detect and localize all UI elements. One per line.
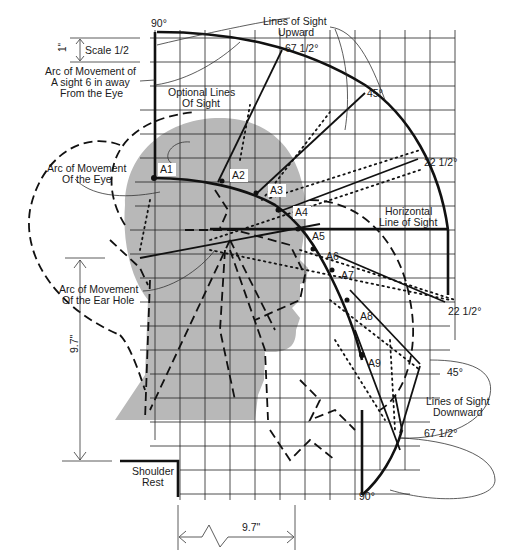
angle-label-down-22: 22 1/2° [448, 305, 481, 317]
angle-label-up-45: 45° [367, 87, 383, 99]
angle-label-down-45: 45° [447, 366, 463, 378]
label-lines-up-2: Upward [278, 26, 314, 38]
point-label-a3: A3 [270, 184, 283, 196]
label-arc-eye-2: Of the Eye [62, 173, 112, 185]
horizontal-dimension [178, 505, 295, 550]
angle-label-bottom-90: 90° [359, 490, 375, 502]
angle-label-up-22: 22 1/2° [424, 156, 457, 168]
sight-lines-diagram: A1 A2 A3 A4 A5 A6 A7 A8 A9 90° 67 1/2° 4… [0, 0, 510, 560]
angle-label-down-67: 67 1/2° [424, 427, 457, 439]
point-label-a1: A1 [160, 163, 173, 175]
dim-vertical-label: 9.7" [68, 334, 80, 353]
dim-horizontal-label: 9.7" [242, 521, 261, 533]
label-lines-down-2: Downward [433, 406, 483, 418]
label-shoulder-2: Rest [142, 476, 164, 488]
point-label-a4: A4 [295, 206, 308, 218]
label-optional-2: Of Sight [182, 97, 220, 109]
point-label-a6: A6 [326, 250, 339, 262]
label-horizontal-2: Line of Sight [379, 216, 437, 228]
point-label-a2: A2 [232, 169, 245, 181]
point-label-a8: A8 [360, 310, 373, 322]
angle-label-up-67: 67 1/2° [285, 42, 318, 54]
point-label-a9: A9 [368, 357, 381, 369]
scale-unit-mark: 1" [57, 42, 68, 52]
point-label-a7: A7 [341, 269, 354, 281]
label-arc6-3: From the Eye [60, 87, 123, 99]
head-silhouette [115, 118, 308, 420]
label-arc-ear-2: Of the Ear Hole [62, 294, 135, 306]
scale-label: Scale 1/2 [85, 44, 129, 56]
angle-label-top-90: 90° [151, 17, 167, 29]
point-label-a5: A5 [312, 230, 325, 242]
